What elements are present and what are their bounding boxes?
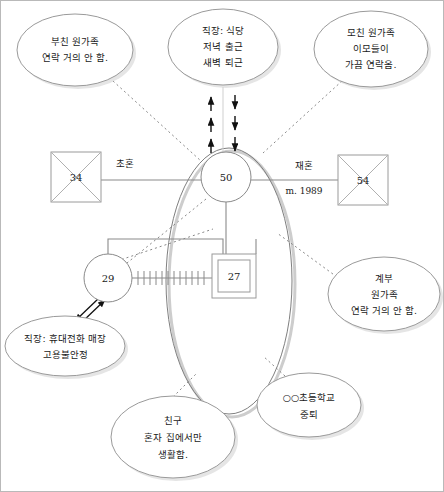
note-line: 새벽 퇴근 xyxy=(203,57,242,68)
note-line: 친구 xyxy=(164,415,182,426)
note-line: 모친 원가족 xyxy=(347,27,395,38)
note-school-note: ○○초등학교 중퇴 xyxy=(257,373,364,440)
person-node-mother[interactable]: 50 xyxy=(201,152,251,202)
note-line: 고용불안정 xyxy=(43,349,88,360)
note-line: 저녁 출근 xyxy=(203,41,242,52)
genogram-diagram: 초혼 재혼 m. 1989 xyxy=(1,1,444,492)
person-label-index-person: 27 xyxy=(228,271,241,282)
connector-maternal xyxy=(263,81,342,153)
note-line: ○○초등학교 xyxy=(283,392,336,403)
note-line: 원가족 xyxy=(371,289,398,300)
person-label-stepfather: 54 xyxy=(357,175,370,186)
person-label-daughter: 29 xyxy=(102,273,115,284)
note-stepfather-family-note: 계부 원가족 연락 거의 안 함. xyxy=(328,257,443,334)
note-line: 연락 거의 안 함. xyxy=(42,52,108,63)
genogram-page: 초혼 재혼 m. 1989 xyxy=(0,0,444,492)
note-line: 직장: 휴대전화 매장 xyxy=(24,333,105,344)
person-node-stepfather[interactable]: 54 xyxy=(338,155,388,205)
note-line: 부친 원가족 xyxy=(51,36,99,47)
note-line: 이모들이 xyxy=(353,43,389,54)
connector-paternal xyxy=(113,81,201,161)
note-line: 가끔 연락옴. xyxy=(345,59,396,70)
note-line: 혼자 집에서만 xyxy=(144,432,201,443)
person-node-father[interactable]: 34 xyxy=(51,152,101,202)
note-maternal-family-note: 모친 원가족 이모들이 가끔 연락옴. xyxy=(314,11,431,90)
note-line: 직장: 식당 xyxy=(202,25,244,36)
note-daughter-work-note: 직장: 휴대전화 매장 고용불안정 xyxy=(5,316,128,379)
first-marriage-label: 초혼 xyxy=(116,158,134,169)
note-line: 계부 xyxy=(375,273,393,284)
note-mother-work-note: 직장: 식당 저녁 출근 새벽 퇴근 xyxy=(168,9,281,88)
marriage-year-label: m. 1989 xyxy=(285,186,322,196)
person-node-index-person[interactable]: 27 xyxy=(212,254,256,298)
person-node-daughter[interactable]: 29 xyxy=(84,254,132,302)
remarriage-label: 재혼 xyxy=(295,160,313,171)
mother-commute-arrows xyxy=(211,87,235,153)
person-label-father: 34 xyxy=(70,172,83,183)
note-line: 생활함. xyxy=(158,449,188,460)
person-label-mother: 50 xyxy=(220,172,233,183)
note-line: 중퇴 xyxy=(300,409,318,420)
note-paternal-family-note: 부친 원가족 연락 거의 안 함. xyxy=(17,14,136,89)
note-line: 연락 거의 안 함. xyxy=(351,305,417,316)
